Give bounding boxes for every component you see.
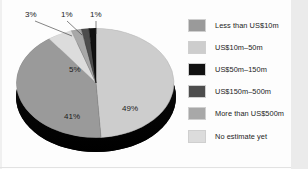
legend-swatch-less-than-us10m <box>188 19 206 32</box>
legend-label-us50m-150m: US$50m–150m <box>215 65 267 74</box>
legend-label-us10m-50m: US$10m–50m <box>215 43 263 52</box>
pie-body: 49% 41% 5% <box>16 28 176 152</box>
legend-swatch-us150m-500m <box>188 85 206 98</box>
pie-label-second: 41% <box>64 112 80 121</box>
figure-bottom-rule <box>0 167 291 168</box>
pie-label-largest: 49% <box>122 104 138 113</box>
legend-swatch-us10m-50m <box>188 41 206 54</box>
pie-label-third: 5% <box>69 65 81 74</box>
pie-callout-us150m-500m: 1% <box>61 10 73 19</box>
legend-swatch-us50m-150m <box>188 63 206 76</box>
chart-figure: 49% 41% 5% 3% 1% 1% Less than US$10m US$… <box>0 0 308 169</box>
legend-item-less-than-us10m[interactable]: Less than US$10m <box>188 14 300 36</box>
pie-chart: 49% 41% 5% 3% 1% 1% <box>6 2 186 164</box>
pie-top-face <box>16 28 176 138</box>
legend-item-us10m-50m[interactable]: US$10m–50m <box>188 36 300 58</box>
legend-swatch-more-than-us500m <box>188 107 206 120</box>
legend-label-less-than-us10m: Less than US$10m <box>215 21 279 30</box>
legend-item-us150m-500m[interactable]: US$150m–500m <box>188 81 300 103</box>
legend-item-us50m-150m[interactable]: US$50m–150m <box>188 58 300 80</box>
legend-item-no-estimate-yet[interactable]: No estimate yet <box>188 125 300 147</box>
legend-label-more-than-us500m: More than US$500m <box>215 109 284 118</box>
figure-left-edge <box>0 0 2 169</box>
pie-callout-more-than-us500m: 3% <box>25 10 37 19</box>
legend-label-no-estimate-yet: No estimate yet <box>215 132 267 141</box>
pie-slices <box>16 28 176 138</box>
legend-item-more-than-us500m[interactable]: More than US$500m <box>188 103 300 125</box>
chart-legend: Less than US$10m US$10m–50m US$50m–150m … <box>188 14 300 147</box>
legend-label-us150m-500m: US$150m–500m <box>215 87 271 96</box>
pie-callout-us50m-150m: 1% <box>90 10 102 19</box>
legend-swatch-no-estimate-yet <box>188 130 206 143</box>
